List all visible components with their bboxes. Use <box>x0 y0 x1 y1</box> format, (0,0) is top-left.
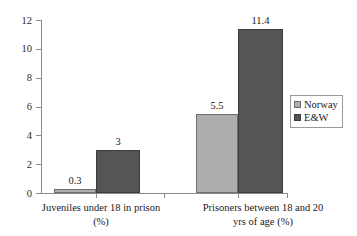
y-axis-tick-label-4: 4 <box>27 131 32 142</box>
legend-label-ew: E&W <box>304 111 329 124</box>
y-axis-tick-label-10: 10 <box>22 44 33 55</box>
bar-norway-juveniles: 0.3 <box>54 189 96 193</box>
legend: Norway E&W <box>290 95 343 128</box>
category-label-line-1: Juveniles under 18 in prison <box>16 201 186 215</box>
y-axis-tick-label-6: 6 <box>27 102 32 113</box>
bar-norway-prisoners: 5.5 <box>196 114 238 193</box>
x-axis-tick-3 <box>238 193 239 198</box>
legend-item-norway: Norway <box>294 98 338 111</box>
category-label-line-2: yrs of age (%) <box>178 215 348 229</box>
y-axis-tick-label-8: 8 <box>27 73 32 84</box>
category-label-line-1: Prisoners between 18 and 20 <box>178 201 348 215</box>
bar-ew-prisoners: 11.4 <box>238 29 283 193</box>
category-label-line-2: (%) <box>16 215 186 229</box>
legend-swatch-icon-ew <box>294 114 301 121</box>
bar-chart: 12 10 8 6 4 2 0 0.3 3 5.5 <box>0 0 357 236</box>
x-axis-category-label-prisoners: Prisoners between 18 and 20 yrs of age (… <box>178 201 348 229</box>
bar-value-ew-juveniles: 3 <box>115 137 120 148</box>
y-axis-tick-label-12: 12 <box>22 15 33 26</box>
x-axis-tick-4 <box>287 193 288 198</box>
legend-label-norway: Norway <box>304 98 338 111</box>
bar-value-norway-juveniles: 0.3 <box>68 176 81 187</box>
x-axis-tick-2 <box>164 193 165 198</box>
y-axis-tick-label-0: 0 <box>27 188 32 199</box>
bar-ew-juveniles: 3 <box>96 150 140 193</box>
x-axis-tick-1 <box>96 193 97 198</box>
legend-item-ew: E&W <box>294 111 338 124</box>
x-axis-category-label-juveniles: Juveniles under 18 in prison (%) <box>16 201 186 229</box>
legend-swatch-icon-norway <box>294 101 301 108</box>
plot-area: 0.3 3 5.5 11.4 <box>41 20 287 193</box>
bar-value-ew-prisoners: 11.4 <box>252 16 270 27</box>
bar-value-norway-prisoners: 5.5 <box>210 101 223 112</box>
y-axis-tick-label-2: 2 <box>27 159 32 170</box>
